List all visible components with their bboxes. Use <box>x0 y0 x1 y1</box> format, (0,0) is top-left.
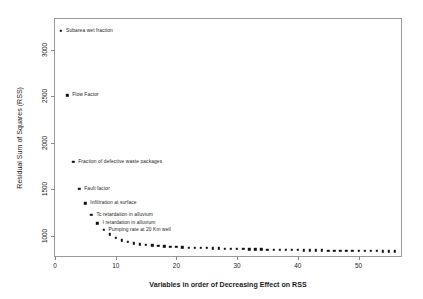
data-point <box>230 248 232 250</box>
y-axis-tick-label: 2000 <box>41 136 48 150</box>
data-point <box>224 247 226 249</box>
data-point <box>394 250 396 252</box>
x-axis-tick-label: 30 <box>234 262 241 269</box>
data-point <box>139 243 141 245</box>
data-point <box>187 246 189 248</box>
data-point <box>363 250 365 252</box>
data-point <box>321 249 323 251</box>
data-point <box>345 250 347 252</box>
y-axis-tick <box>51 50 55 51</box>
data-point <box>303 249 305 251</box>
data-point <box>284 249 286 251</box>
data-point <box>242 248 244 250</box>
y-axis-title: Residual Sum of Squares (RSS) <box>14 18 26 257</box>
data-point <box>72 160 74 162</box>
data-point <box>175 246 177 248</box>
data-point <box>376 250 378 252</box>
data-point <box>351 250 353 252</box>
plot-frame: 1000150020002500300001020304050Subarea w… <box>54 18 402 257</box>
y-axis-tick <box>51 96 55 97</box>
data-point <box>248 248 250 250</box>
point-annotation: Pumping rate at 20 Km well <box>109 227 171 232</box>
data-point <box>121 239 123 241</box>
plot-area: 1000150020002500300001020304050Subarea w… <box>55 19 401 256</box>
data-point <box>218 247 220 249</box>
x-axis-tick-label: 20 <box>173 262 180 269</box>
data-point <box>333 249 335 251</box>
data-point <box>60 30 62 32</box>
x-axis-tick <box>298 256 299 260</box>
data-point <box>297 249 299 251</box>
x-axis-title: Variables in order of Decreasing Effect … <box>54 281 402 289</box>
x-axis-tick <box>116 256 117 260</box>
data-point <box>369 250 371 252</box>
data-point <box>278 249 280 251</box>
data-point <box>96 222 98 224</box>
point-annotation: Infiltration at surface <box>90 201 136 206</box>
data-point <box>339 249 341 251</box>
y-axis-tick <box>51 236 55 237</box>
data-point <box>254 248 256 250</box>
data-point <box>260 248 262 250</box>
data-point <box>206 247 208 249</box>
point-annotation: Flow Factor <box>72 93 99 98</box>
point-annotation: Subarea wet fraction <box>66 29 113 34</box>
x-axis-tick-label: 50 <box>355 262 362 269</box>
data-point <box>199 247 201 249</box>
x-axis-tick <box>55 256 56 260</box>
data-point <box>157 245 159 247</box>
point-annotation: Fault factor <box>84 187 110 192</box>
x-axis-tick-label: 0 <box>53 262 57 269</box>
data-point <box>66 94 68 96</box>
data-point <box>291 249 293 251</box>
point-annotation: Fraction of defective waste packages <box>78 159 162 164</box>
data-point <box>90 214 92 216</box>
x-axis-tick <box>359 256 360 260</box>
data-point <box>309 249 311 251</box>
point-annotation: Tc retardation in alluvium <box>96 213 153 218</box>
data-point <box>102 228 104 230</box>
y-axis-tick-label: 1500 <box>41 182 48 196</box>
data-point <box>357 250 359 252</box>
data-point <box>193 247 195 249</box>
data-point <box>169 246 171 248</box>
data-point <box>327 249 329 251</box>
data-point <box>236 248 238 250</box>
data-point <box>181 246 183 248</box>
chart-figure: Residual Sum of Squares (RSS) 1000150020… <box>0 0 423 299</box>
data-point <box>388 250 390 252</box>
data-point <box>382 250 384 252</box>
data-point <box>84 202 86 204</box>
x-axis-tick-label: 10 <box>112 262 119 269</box>
data-point <box>163 245 165 247</box>
x-axis-tick <box>237 256 238 260</box>
y-axis-tick-label: 2500 <box>41 89 48 103</box>
data-point <box>78 188 80 190</box>
data-point <box>133 242 135 244</box>
data-point <box>212 247 214 249</box>
data-point <box>315 249 317 251</box>
data-point <box>266 248 268 250</box>
y-axis-tick <box>51 189 55 190</box>
x-axis-tick-label: 40 <box>294 262 301 269</box>
y-axis-tick-label: 3000 <box>41 43 48 57</box>
data-point <box>145 244 147 246</box>
y-axis-tick-label: 1000 <box>41 228 48 242</box>
data-point <box>151 244 153 246</box>
data-point <box>108 233 110 235</box>
x-axis-tick <box>176 256 177 260</box>
data-point <box>127 241 129 243</box>
data-point <box>272 248 274 250</box>
y-axis-tick <box>51 143 55 144</box>
y-axis-title-text: Residual Sum of Squares (RSS) <box>16 87 24 189</box>
data-point <box>114 237 116 239</box>
